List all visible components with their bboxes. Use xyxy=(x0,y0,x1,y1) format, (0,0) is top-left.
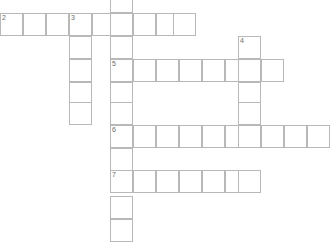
crossword-letter xyxy=(174,14,195,35)
crossword-cell[interactable] xyxy=(202,170,225,193)
crossword-letter xyxy=(134,126,155,147)
crossword-letter xyxy=(70,60,91,81)
crossword-letter xyxy=(1,14,22,35)
crossword-cell[interactable]: 2 xyxy=(0,13,23,36)
crossword-letter xyxy=(134,14,155,35)
crossword-cell[interactable] xyxy=(110,219,133,242)
crossword-letter xyxy=(180,126,201,147)
crossword-cell[interactable]: 7 xyxy=(110,170,133,193)
crossword-cell[interactable] xyxy=(179,170,202,193)
crossword-letter xyxy=(70,103,91,124)
crossword-cell[interactable] xyxy=(110,13,133,36)
crossword-cell[interactable]: 3 xyxy=(69,13,92,36)
crossword-cell[interactable] xyxy=(110,36,133,59)
crossword-letter xyxy=(111,149,132,170)
crossword-cell[interactable] xyxy=(23,13,46,36)
crossword-cell[interactable] xyxy=(238,59,261,82)
crossword-letter xyxy=(111,37,132,58)
crossword-cell[interactable] xyxy=(110,0,133,13)
crossword-cell[interactable] xyxy=(110,102,133,125)
crossword-letter xyxy=(262,126,283,147)
crossword-cell[interactable] xyxy=(69,36,92,59)
crossword-cell[interactable] xyxy=(179,59,202,82)
crossword-letter xyxy=(24,14,45,35)
crossword-letter xyxy=(203,171,224,192)
crossword-letter xyxy=(203,60,224,81)
crossword-cell[interactable] xyxy=(156,125,179,148)
crossword-cell[interactable] xyxy=(284,125,307,148)
crossword-cell[interactable] xyxy=(133,59,156,82)
crossword-letter xyxy=(111,197,132,218)
crossword-cell[interactable] xyxy=(110,196,133,219)
crossword-cell[interactable] xyxy=(69,102,92,125)
crossword-cell[interactable] xyxy=(238,125,261,148)
crossword-cell[interactable] xyxy=(46,13,69,36)
crossword-cell[interactable] xyxy=(261,125,284,148)
crossword-cell[interactable] xyxy=(69,59,92,82)
crossword-letter xyxy=(157,126,178,147)
crossword-letter xyxy=(111,171,132,192)
crossword-cell[interactable]: 5 xyxy=(110,59,133,82)
crossword-cell[interactable] xyxy=(156,170,179,193)
crossword-letter xyxy=(111,60,132,81)
crossword-cell[interactable] xyxy=(238,170,261,193)
crossword-cell[interactable] xyxy=(179,125,202,148)
crossword-cell[interactable] xyxy=(261,59,284,82)
crossword-cell[interactable]: 4 xyxy=(238,36,261,59)
crossword-cell[interactable] xyxy=(133,125,156,148)
crossword-letter xyxy=(47,14,68,35)
crossword-letter xyxy=(111,126,132,147)
crossword-letter xyxy=(70,83,91,104)
crossword-letter xyxy=(239,103,260,124)
crossword-cell[interactable] xyxy=(133,170,156,193)
crossword-cell[interactable] xyxy=(133,13,156,36)
crossword-cell[interactable] xyxy=(238,102,261,125)
crossword-letter xyxy=(70,37,91,58)
crossword-cell[interactable] xyxy=(156,59,179,82)
crossword-letter xyxy=(111,220,132,241)
crossword-letter xyxy=(180,171,201,192)
crossword-cell[interactable] xyxy=(110,148,133,171)
crossword-letter xyxy=(134,60,155,81)
crossword-letter xyxy=(239,60,260,81)
crossword-letter xyxy=(239,83,260,104)
crossword-cell[interactable] xyxy=(202,59,225,82)
crossword-letter xyxy=(262,60,283,81)
crossword-letter xyxy=(239,126,260,147)
crossword-letter xyxy=(285,126,306,147)
crossword-letter xyxy=(134,171,155,192)
crossword-letter xyxy=(239,171,260,192)
crossword-letter xyxy=(180,60,201,81)
crossword-letter xyxy=(111,83,132,104)
crossword-letter xyxy=(308,126,329,147)
crossword-cell[interactable] xyxy=(173,13,196,36)
crossword-cell[interactable] xyxy=(202,125,225,148)
crossword-cell[interactable] xyxy=(307,125,330,148)
crossword-letter xyxy=(111,0,132,12)
crossword-letter xyxy=(157,60,178,81)
crossword-letter xyxy=(70,14,91,35)
crossword-letter xyxy=(157,171,178,192)
crossword-cell[interactable]: 6 xyxy=(110,125,133,148)
crossword-letter xyxy=(203,126,224,147)
crossword-letter xyxy=(239,37,260,58)
crossword-grid: 234567 xyxy=(0,0,332,248)
crossword-letter xyxy=(111,103,132,124)
crossword-letter xyxy=(111,14,132,35)
